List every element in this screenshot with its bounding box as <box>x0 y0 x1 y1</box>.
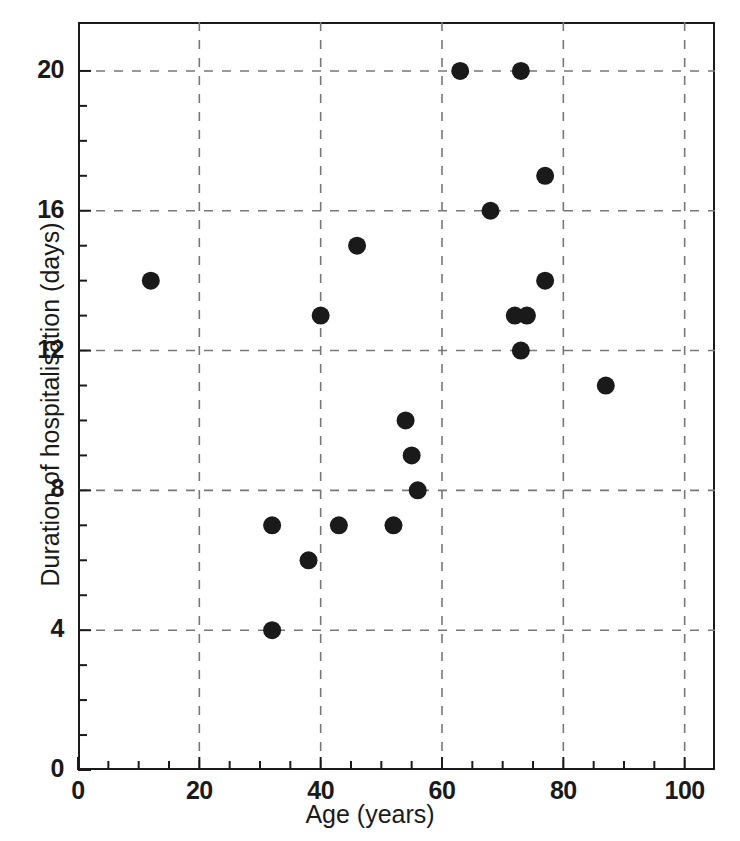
data-point <box>518 307 536 325</box>
data-point <box>451 62 469 80</box>
data-point <box>397 411 415 429</box>
data-point <box>312 307 330 325</box>
data-point <box>348 237 366 255</box>
x-axis-title: Age (years) <box>0 800 740 829</box>
data-point <box>409 481 427 499</box>
data-point <box>142 272 160 290</box>
data-point <box>482 202 500 220</box>
data-point <box>384 516 402 534</box>
data-point <box>403 446 421 464</box>
plot-area <box>78 22 715 770</box>
data-point <box>330 516 348 534</box>
data-points-layer <box>78 22 715 770</box>
scatter-plot-figure: 048121620 020406080100 Age (years) Durat… <box>0 0 740 841</box>
data-point <box>536 272 554 290</box>
data-point <box>512 62 530 80</box>
data-point <box>512 342 530 360</box>
data-point <box>263 621 281 639</box>
data-point <box>263 516 281 534</box>
data-point <box>597 377 615 395</box>
data-point <box>536 167 554 185</box>
data-point <box>300 551 318 569</box>
y-axis-title: Duration of hospitalisation (days) <box>36 55 65 755</box>
